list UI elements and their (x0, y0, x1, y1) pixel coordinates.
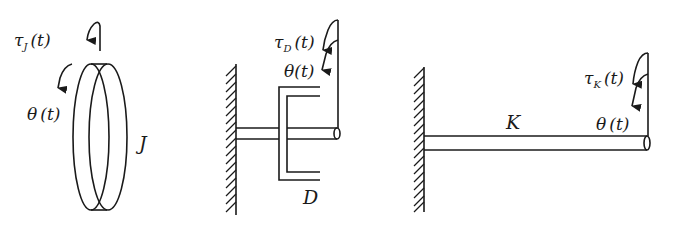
torque-label-j: τJ(t) (14, 30, 51, 52)
torque-label-k: τK(t) (584, 68, 624, 90)
damper-cup-icon (279, 87, 320, 180)
damper-symbol-label: D (302, 186, 318, 208)
damper-element: τD(t) θ(t) D (226, 20, 340, 215)
spring-element: τK(t) θ(t) K (414, 53, 650, 212)
angle-arrow-icon (58, 64, 72, 88)
torque-arrow-icon (632, 53, 648, 136)
shaft-icon (424, 136, 650, 150)
disk-icon (73, 64, 127, 210)
diagram-canvas: τJ(t) θ(t) J (0, 0, 681, 232)
angle-label-j: θ(t) (27, 104, 60, 124)
fixed-wall-icon (414, 67, 424, 212)
shaft-icon (236, 128, 340, 139)
angle-label-d: θ(t) (284, 61, 314, 81)
spring-symbol-label: K (505, 111, 522, 133)
torque-label-d: τD(t) (274, 32, 315, 54)
torque-arrow-icon (87, 22, 100, 51)
inertia-element: τJ(t) θ(t) J (14, 22, 148, 210)
fixed-wall-icon (226, 64, 236, 215)
torque-arrow-icon (322, 20, 338, 128)
angle-label-k: θ(t) (596, 114, 629, 134)
inertia-symbol-label: J (135, 132, 148, 154)
